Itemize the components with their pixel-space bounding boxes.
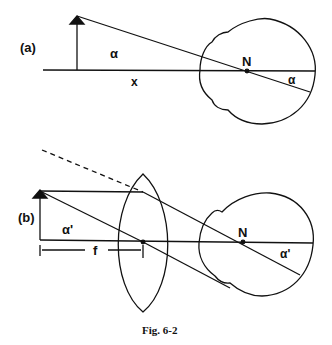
nodal-point-b (241, 240, 245, 244)
optical-axis-b (40, 240, 313, 243)
refracted-ray-bottom (143, 242, 230, 288)
figure-caption: Fig. 6-2 (142, 324, 178, 336)
panel-b (33, 150, 313, 312)
lens-center (141, 240, 145, 244)
distance-label-x: x (131, 75, 138, 89)
panel-a-label: (a) (20, 40, 36, 55)
nodal-label-a: N (242, 54, 251, 69)
angle-label-a-left: α (110, 46, 118, 61)
parallel-ray (40, 191, 143, 192)
nodal-label-b: N (238, 225, 247, 240)
panel-b-label: (b) (18, 210, 35, 225)
chief-ray (40, 191, 143, 242)
focal-length-label: f (93, 243, 98, 258)
optics-diagram: (a) α α x N (b) α' α' f N Fig. 6-2 (0, 0, 332, 345)
panel-a (43, 16, 315, 124)
optical-axis-a (43, 70, 315, 71)
angle-label-b-right: α' (280, 247, 290, 261)
dashed-ray (42, 150, 143, 192)
angle-label-b-left: α' (62, 222, 73, 237)
angle-label-a-right: α (288, 73, 296, 87)
nodal-point-a (245, 69, 249, 73)
